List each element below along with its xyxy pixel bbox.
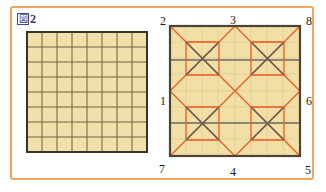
caption-box-icon: 図 bbox=[17, 13, 29, 25]
caption-number: 2 bbox=[30, 13, 36, 25]
vertex-label-4: 4 bbox=[230, 166, 236, 178]
plain-grid-panel bbox=[26, 31, 148, 153]
plain-grid-svg bbox=[26, 31, 148, 153]
vertex-label-5: 5 bbox=[305, 164, 311, 176]
pattern-svg bbox=[168, 24, 302, 161]
vertex-label-2: 2 bbox=[160, 15, 166, 27]
vertex-label-1: 1 bbox=[160, 95, 166, 107]
vertex-label-3: 3 bbox=[230, 14, 236, 26]
pattern-panel bbox=[168, 24, 302, 161]
vertex-label-7: 7 bbox=[159, 163, 165, 175]
vertex-label-6: 6 bbox=[306, 95, 312, 107]
figure-container: 図 2 bbox=[0, 0, 326, 192]
vertex-label-8: 8 bbox=[306, 15, 312, 27]
figure-caption: 図 2 bbox=[17, 13, 36, 25]
